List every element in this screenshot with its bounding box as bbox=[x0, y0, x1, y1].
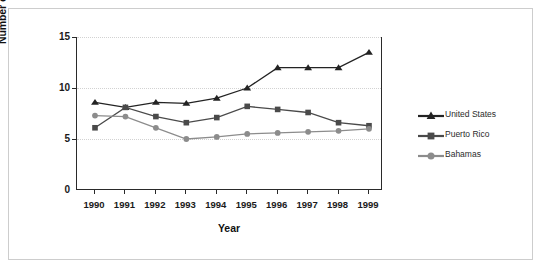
x-tick-label: 1998 bbox=[321, 200, 355, 210]
legend-label-bahamas: Bahamas bbox=[444, 149, 481, 159]
series-line-puerto-rico bbox=[95, 106, 369, 127]
legend-label-puerto-rico: Puerto Rico bbox=[444, 129, 489, 139]
data-point-marker bbox=[153, 125, 159, 131]
x-tick-mark bbox=[246, 190, 247, 194]
legend-item-united-states[interactable]: United States bbox=[418, 104, 496, 124]
chart-legend: United States Puerto Rico bbox=[418, 104, 496, 164]
y-tick-mark bbox=[72, 139, 76, 140]
data-point-marker bbox=[365, 49, 373, 55]
data-point-marker bbox=[123, 105, 129, 111]
y-axis-title: Number of tropical storms bbox=[0, 0, 8, 44]
data-point-marker bbox=[153, 114, 159, 120]
y-tick-label: 5 bbox=[48, 134, 70, 144]
data-point-marker bbox=[91, 99, 99, 105]
x-axis-title: Year bbox=[76, 222, 382, 234]
x-tick-mark bbox=[368, 190, 369, 194]
data-point-marker bbox=[275, 107, 281, 113]
x-tick-mark bbox=[216, 190, 217, 194]
data-point-marker bbox=[183, 136, 189, 142]
data-point-marker bbox=[275, 130, 281, 136]
data-point-marker bbox=[244, 104, 250, 110]
x-tick-label: 1992 bbox=[138, 200, 172, 210]
data-point-marker bbox=[336, 128, 342, 134]
data-point-marker bbox=[305, 129, 311, 135]
x-tick-label: 1999 bbox=[351, 200, 385, 210]
triangle-marker-icon bbox=[418, 108, 444, 120]
x-tick-mark bbox=[124, 190, 125, 194]
x-tick-label: 1994 bbox=[199, 200, 233, 210]
x-tick-label: 1995 bbox=[229, 200, 263, 210]
x-tick-mark bbox=[338, 190, 339, 194]
x-tick-mark bbox=[185, 190, 186, 194]
y-tick-mark bbox=[72, 37, 76, 38]
x-tick-mark bbox=[155, 190, 156, 194]
data-point-marker bbox=[92, 113, 98, 119]
series-lines bbox=[77, 37, 383, 190]
y-tick-mark bbox=[72, 88, 76, 89]
x-tick-label: 1996 bbox=[260, 200, 294, 210]
plot-area bbox=[76, 37, 382, 190]
x-tick-label: 1997 bbox=[290, 200, 324, 210]
legend-item-puerto-rico[interactable]: Puerto Rico bbox=[418, 124, 496, 144]
x-tick-mark bbox=[94, 190, 95, 194]
chart-screenshot: Number of tropical storms 051015 1990199… bbox=[0, 0, 543, 269]
y-tick-label: 10 bbox=[48, 83, 70, 93]
x-tick-label: 1993 bbox=[168, 200, 202, 210]
data-point-marker bbox=[336, 120, 342, 126]
data-point-marker bbox=[305, 110, 311, 116]
x-tick-mark bbox=[277, 190, 278, 194]
legend-label-united-states: United States bbox=[444, 109, 496, 119]
data-point-marker bbox=[123, 114, 129, 120]
circle-marker-icon bbox=[418, 148, 444, 160]
data-point-marker bbox=[184, 120, 190, 126]
x-tick-mark bbox=[307, 190, 308, 194]
data-point-marker bbox=[214, 134, 220, 140]
data-point-marker bbox=[366, 126, 372, 132]
y-tick-label: 0 bbox=[48, 185, 70, 195]
data-point-marker bbox=[244, 131, 250, 137]
x-tick-label: 1991 bbox=[107, 200, 141, 210]
y-tick-label: 15 bbox=[48, 32, 70, 42]
x-tick-label: 1990 bbox=[77, 200, 111, 210]
data-point-marker bbox=[214, 115, 220, 121]
square-marker-icon bbox=[418, 128, 444, 140]
series-line-united-states bbox=[95, 52, 369, 107]
legend-item-bahamas[interactable]: Bahamas bbox=[418, 144, 496, 164]
line-chart: Number of tropical storms 051015 1990199… bbox=[0, 0, 543, 269]
data-point-marker bbox=[92, 125, 98, 131]
